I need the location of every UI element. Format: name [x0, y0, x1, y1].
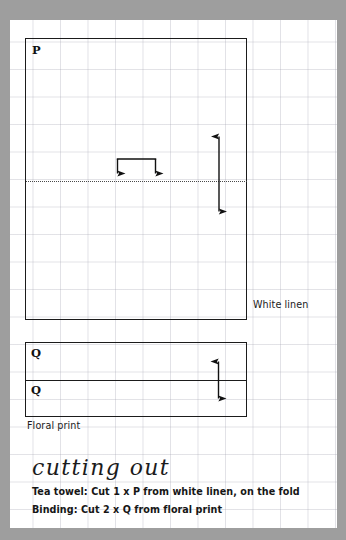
pattern-piece-p: P: [25, 38, 247, 320]
instruction-line-tea-towel: Tea towel: Cut 1 x P from white linen, o…: [32, 486, 300, 497]
piece-q-bottom-label: Q: [31, 385, 41, 397]
pattern-sheet-page: P Q Q: [10, 20, 337, 528]
fold-line: [26, 181, 247, 182]
pattern-content: P Q Q: [10, 20, 337, 528]
pattern-piece-q-group: Q Q: [25, 342, 247, 417]
section-heading-cutting-out: cutting out: [32, 457, 170, 479]
screenshot-root: P Q Q: [0, 0, 346, 540]
fabric-caption-floral-print: Floral print: [27, 420, 80, 431]
piece-q-top-label: Q: [31, 348, 41, 360]
fabric-caption-white-linen: White linen: [253, 299, 308, 310]
piece-p-label: P: [32, 45, 41, 57]
instruction-line-binding: Binding: Cut 2 x Q from floral print: [32, 504, 222, 515]
piece-q-divider: [26, 380, 246, 381]
